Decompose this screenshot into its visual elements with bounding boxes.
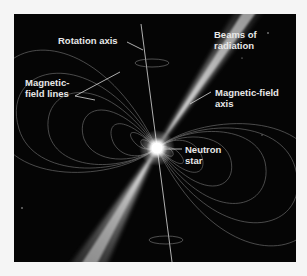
beams-of-radiation-line2: radiation — [214, 41, 257, 52]
diagram-panel: Rotation axis Beams of radiation Magneti… — [14, 14, 296, 262]
magnetic-field-axis-line2: axis — [215, 99, 279, 110]
rotation-axis-label: Rotation axis — [58, 36, 118, 47]
magnetic-field-lines-label: Magnetic- field lines — [25, 78, 69, 99]
neutron-star-line2: star — [185, 156, 221, 167]
pulsar-illustration — [14, 14, 296, 262]
neutron-star-line1: Neutron — [185, 145, 221, 156]
magnetic-field-lines-line2: field lines — [25, 89, 69, 100]
pulsar-figure: Rotation axis Beams of radiation Magneti… — [0, 0, 307, 276]
neutron-star — [139, 130, 175, 166]
beams-of-radiation-label: Beams of radiation — [214, 30, 257, 51]
magnetic-field-axis-label: Magnetic-field axis — [215, 88, 279, 109]
background-stars — [21, 32, 269, 209]
magnetic-field-lines-line1: Magnetic- — [25, 78, 69, 89]
magnetic-field-axis-line1: Magnetic-field — [215, 88, 279, 99]
neutron-star-label: Neutron star — [185, 145, 221, 166]
beams-of-radiation-line1: Beams of — [214, 30, 257, 41]
